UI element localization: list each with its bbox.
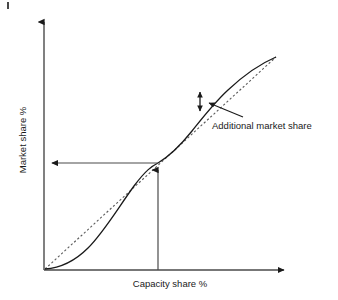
annotation-additional-market-share: Additional market share bbox=[212, 120, 312, 131]
chart-figure: Additional market share Capacity share %… bbox=[0, 0, 338, 300]
annotation-leader-line bbox=[209, 103, 243, 117]
x-axis-label: Capacity share % bbox=[133, 278, 208, 289]
y-axis-label: Market share % bbox=[17, 106, 28, 173]
chart-canvas: Additional market share Capacity share %… bbox=[0, 0, 338, 300]
